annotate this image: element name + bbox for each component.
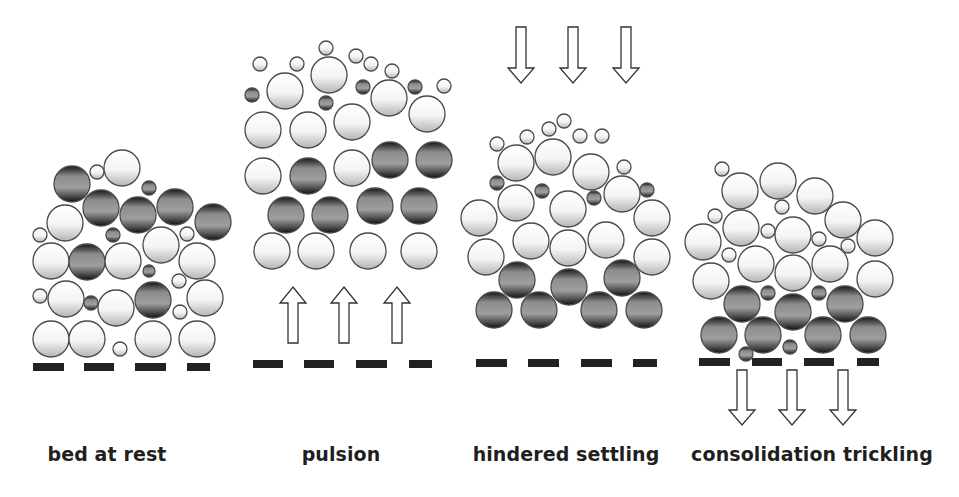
light-particle <box>797 178 833 214</box>
dense-particle <box>157 189 193 225</box>
light-particle <box>761 224 775 238</box>
light-particle <box>173 305 187 319</box>
light-particle <box>364 57 378 71</box>
light-particle <box>595 129 609 143</box>
light-particle <box>557 114 571 128</box>
light-particle <box>135 321 171 357</box>
light-particle <box>69 321 105 357</box>
arrow-down-icon <box>779 370 805 425</box>
dense-particle <box>84 296 98 310</box>
light-particle <box>708 209 722 223</box>
dense-particle <box>416 142 452 178</box>
light-particle <box>311 57 347 93</box>
label-bed-at-rest: bed at rest <box>48 443 167 465</box>
light-particle <box>634 200 670 236</box>
dense-particle <box>245 88 259 102</box>
light-particle <box>490 137 504 151</box>
light-particle <box>33 243 69 279</box>
panel-consolidation-trickling <box>685 162 893 425</box>
light-particle <box>520 130 534 144</box>
label-pulsion: pulsion <box>302 443 381 465</box>
light-particle <box>760 163 796 199</box>
dense-particle <box>551 269 587 305</box>
light-particle <box>371 80 407 116</box>
screen-bar <box>752 358 782 366</box>
light-particle <box>722 173 758 209</box>
light-particle <box>461 200 497 236</box>
light-particle <box>617 160 631 174</box>
screen-bar <box>476 359 507 367</box>
dense-particle <box>268 197 304 233</box>
light-particle <box>254 233 290 269</box>
light-particle <box>775 217 811 253</box>
dense-particle <box>739 347 753 361</box>
light-particle <box>738 246 774 282</box>
screen-bar <box>699 358 730 366</box>
light-particle <box>775 200 789 214</box>
dense-particle <box>783 340 797 354</box>
dense-particle <box>142 181 156 195</box>
dense-particle <box>761 286 775 300</box>
dense-particle <box>827 286 863 322</box>
screen-bar <box>528 359 559 367</box>
light-particle <box>604 176 640 212</box>
dense-particle <box>319 96 333 110</box>
light-particle <box>634 239 670 275</box>
light-particle <box>498 145 534 181</box>
light-particle <box>290 57 304 71</box>
arrow-down-icon <box>613 27 639 83</box>
light-particle <box>685 224 721 260</box>
screen-bar <box>356 360 387 368</box>
diagram-canvas <box>0 0 959 497</box>
dense-particle <box>476 292 512 328</box>
dense-particle <box>372 142 408 178</box>
light-particle <box>334 104 370 140</box>
arrow-up-icon <box>331 287 357 343</box>
screen-bar <box>253 360 283 368</box>
dense-particle <box>312 197 348 233</box>
light-particle <box>104 150 140 186</box>
label-consolidation-trickling: consolidation trickling <box>691 443 933 465</box>
light-particle <box>409 96 445 132</box>
arrow-up-icon <box>384 287 410 343</box>
dense-particle <box>581 292 617 328</box>
dense-particle <box>775 294 811 330</box>
arrow-down-icon <box>830 370 856 425</box>
dense-particle <box>812 286 826 300</box>
dense-particle <box>626 292 662 328</box>
screen-bar <box>633 359 657 367</box>
light-particle <box>513 223 549 259</box>
light-particle <box>588 222 624 258</box>
screen-bar <box>804 358 834 366</box>
screen-bar <box>187 363 210 371</box>
light-particle <box>143 227 179 263</box>
light-particle <box>105 243 141 279</box>
light-particle <box>90 165 104 179</box>
dense-particle <box>356 80 370 94</box>
light-particle <box>33 321 69 357</box>
dense-particle <box>805 317 841 353</box>
dense-particle <box>290 158 326 194</box>
screen-bar <box>135 363 166 371</box>
dense-particle <box>69 244 105 280</box>
dense-particle <box>490 176 504 190</box>
light-particle <box>573 129 587 143</box>
dense-particle <box>850 317 886 353</box>
light-particle <box>857 261 893 297</box>
light-particle <box>179 243 215 279</box>
light-particle <box>33 228 47 242</box>
panels-layer <box>33 27 893 425</box>
dense-particle <box>401 188 437 224</box>
light-particle <box>535 139 571 175</box>
light-particle <box>550 191 586 227</box>
light-particle <box>812 246 848 282</box>
light-particle <box>550 230 586 266</box>
light-particle <box>319 41 333 55</box>
dense-particle <box>640 183 654 197</box>
light-particle <box>349 49 363 63</box>
dense-particle <box>701 317 737 353</box>
light-particle <box>48 281 84 317</box>
light-particle <box>187 280 223 316</box>
screen-bar <box>857 358 879 366</box>
light-particle <box>812 232 826 246</box>
